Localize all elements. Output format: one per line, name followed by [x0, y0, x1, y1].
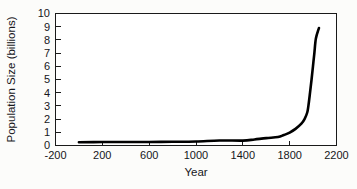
y-axis-title: Population Size (billions) [5, 16, 17, 142]
x-tick-label: 200 [93, 149, 111, 161]
y-tick-labels: 0 1 2 3 4 5 6 7 8 9 10 [38, 7, 50, 151]
y-tick-label: 1 [44, 126, 50, 138]
x-tick-label: 2200 [324, 149, 348, 161]
y-tick-label: 10 [38, 7, 50, 19]
y-tick-label: 2 [44, 113, 50, 125]
x-tick-label: 1800 [277, 149, 301, 161]
plot-background [56, 14, 337, 146]
x-tick-label: -200 [44, 149, 66, 161]
y-tick-label: 6 [44, 60, 50, 72]
y-tick-label: 5 [44, 73, 50, 85]
x-axis-title: Year [184, 166, 207, 178]
chart-figure: 0 1 2 3 4 5 6 7 8 9 10 -200 200 600 1000… [0, 0, 357, 189]
y-tick-label: 7 [44, 47, 50, 59]
y-tick-label: 9 [44, 21, 50, 33]
population-growth-chart: 0 1 2 3 4 5 6 7 8 9 10 -200 200 600 1000… [0, 0, 357, 189]
x-tick-label: 600 [140, 149, 158, 161]
x-tick-label: 1000 [184, 149, 208, 161]
y-tick-label: 8 [44, 34, 50, 46]
y-tick-label: 3 [44, 100, 50, 112]
x-tick-label: 1400 [231, 149, 255, 161]
y-tick-label: 4 [44, 87, 50, 99]
x-tick-labels: -200 200 600 1000 1400 1800 2200 [44, 149, 348, 161]
